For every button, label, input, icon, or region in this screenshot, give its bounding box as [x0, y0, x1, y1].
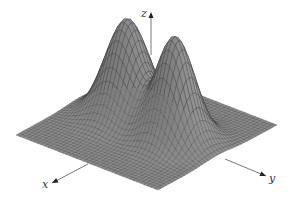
y-axis-label: y: [268, 172, 276, 185]
z-axis: [149, 12, 154, 55]
z-axis-label: z: [140, 7, 147, 20]
surface-plot: x y z: [0, 0, 292, 200]
x-axis-label: x: [42, 178, 49, 191]
